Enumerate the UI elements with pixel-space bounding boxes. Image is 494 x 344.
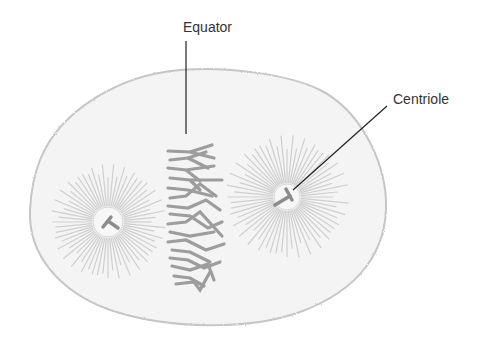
metaphase-cell-diagram: [0, 0, 494, 344]
centriole-label: Centriole: [393, 91, 449, 107]
equator-label: Equator: [183, 19, 232, 35]
